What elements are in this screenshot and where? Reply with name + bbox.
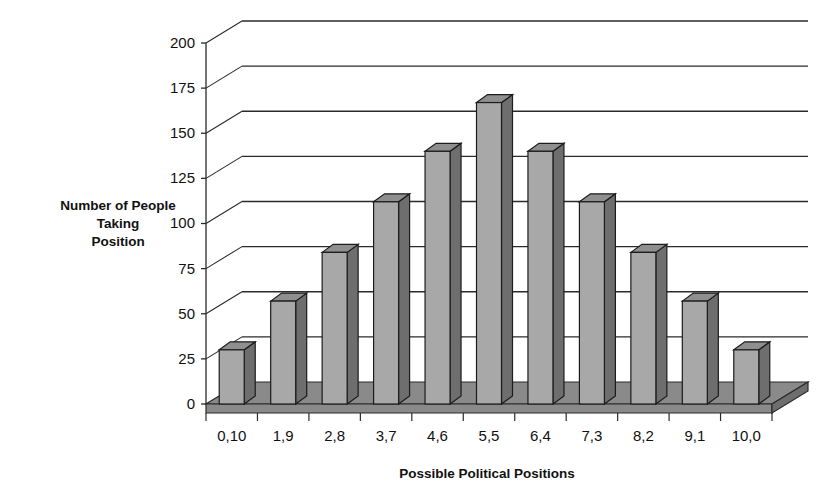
x-axis-tick-label: 5,5 [479, 427, 500, 444]
bar [322, 244, 358, 404]
y-axis-tick-label: 200 [170, 34, 195, 51]
bar [682, 293, 718, 404]
bar-side-face [450, 143, 461, 404]
x-axis-tick-label: 1,9 [273, 427, 294, 444]
y-axis-tick-label: 150 [170, 124, 195, 141]
bar-front-face [425, 151, 450, 404]
y-axis-title-line-1: Number of People [60, 198, 176, 213]
bar-side-face [296, 293, 307, 404]
x-axis-tick-label: 2,8 [324, 427, 345, 444]
bar-front-face [631, 252, 656, 404]
axes [201, 43, 206, 404]
bar-side-face [707, 293, 718, 404]
x-axis-tick-label: 8,2 [633, 427, 654, 444]
gridline-riser [206, 156, 242, 178]
bar [219, 342, 255, 404]
y-axis-tick-label: 50 [178, 305, 195, 322]
bar-front-face [219, 350, 244, 404]
bar-series [219, 95, 770, 404]
bar [631, 244, 667, 404]
gridline-riser [206, 111, 242, 133]
bar-side-face [604, 194, 615, 404]
gridline-riser [206, 66, 242, 88]
bar-front-face [322, 252, 347, 404]
x-axis-tick-labels: 0,101,92,83,74,65,56,47,38,29,110,0 [206, 413, 772, 444]
bar-front-face [477, 103, 502, 404]
x-axis-tick-label: 10,0 [732, 427, 761, 444]
y-axis-tick-label: 125 [170, 169, 195, 186]
x-axis-tick-label: 7,3 [581, 427, 602, 444]
x-axis-tick-label: 4,6 [427, 427, 448, 444]
chart-canvas: 0255075100125150175200 0,101,92,83,74,65… [0, 0, 816, 494]
bar [425, 143, 461, 404]
y-axis-tick-label: 100 [170, 214, 195, 231]
bar [579, 194, 615, 404]
bar-side-face [502, 95, 513, 404]
floor-front-face [206, 404, 772, 413]
bar-front-face [374, 202, 399, 404]
bar-front-face [271, 301, 296, 404]
bar-chart: 0255075100125150175200 0,101,92,83,74,65… [0, 0, 816, 494]
x-axis-tick-label: 6,4 [530, 427, 551, 444]
bar [477, 95, 513, 404]
x-axis-title: Possible Political Positions [399, 466, 575, 481]
x-axis-tick-label: 3,7 [376, 427, 397, 444]
y-axis-tick-label: 25 [178, 350, 195, 367]
y-axis-title-line-2: Taking [97, 216, 140, 231]
bar-side-face [656, 244, 667, 404]
gridline-riser [206, 202, 242, 224]
bar [374, 194, 410, 404]
bar-side-face [244, 342, 255, 404]
bar-front-face [734, 350, 759, 404]
gridline-riser [206, 247, 242, 269]
gridline-riser [206, 21, 242, 43]
bar-side-face [399, 194, 410, 404]
gridline-riser [206, 292, 242, 314]
y-axis-tick-label: 0 [187, 395, 195, 412]
x-axis-tick-label: 0,10 [217, 427, 246, 444]
y-axis-title-line-3: Position [91, 234, 144, 249]
bar [528, 143, 564, 404]
y-axis-tick-labels: 0255075100125150175200 [170, 34, 195, 412]
y-axis-tick-label: 75 [178, 260, 195, 277]
y-axis-title: Number of People Taking Position [60, 198, 176, 249]
bar [734, 342, 770, 404]
bar [271, 293, 307, 404]
x-axis-tick-label: 9,1 [684, 427, 705, 444]
bar-side-face [553, 143, 564, 404]
bar-front-face [579, 202, 604, 404]
bar-side-face [759, 342, 770, 404]
bar-front-face [528, 151, 553, 404]
y-axis-tick-label: 175 [170, 79, 195, 96]
bar-front-face [682, 301, 707, 404]
bar-side-face [347, 244, 358, 404]
